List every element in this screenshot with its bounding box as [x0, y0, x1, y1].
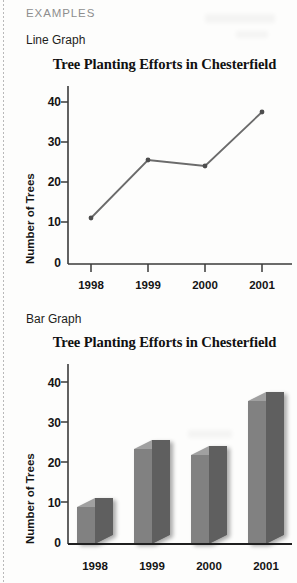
bar-chart-xtick-2001: 2001 [241, 560, 291, 572]
scan-bleed-artifact [205, 14, 275, 23]
bar-graph-label: Bar Graph [26, 312, 81, 326]
line-chart-xtick-2000: 2000 [180, 279, 230, 291]
line-chart-ytick-10: 10 [33, 215, 61, 229]
line-chart-ytick-20: 20 [33, 175, 61, 189]
bar-chart-xtick-2000: 2000 [184, 560, 234, 572]
bar-chart-xtick-1998: 1998 [70, 560, 120, 572]
bar-1998 [77, 498, 113, 544]
bar-graph-title: Tree Planting Efforts in Chesterfield [0, 334, 297, 351]
line-data-point [260, 110, 265, 115]
line-chart-ytick-30: 30 [33, 135, 61, 149]
line-chart-ytick-40: 40 [33, 95, 61, 109]
bar-chart: Number of Trees 40 30 20 10 0 [0, 364, 297, 583]
line-chart-xtick-1998: 1998 [66, 279, 116, 291]
line-data-point [203, 164, 208, 169]
bar-1999 [134, 440, 170, 544]
line-chart-ytick-0: 0 [33, 256, 61, 270]
scan-bleed-artifact [236, 31, 268, 38]
line-series-path [91, 112, 262, 218]
line-chart-xtick-1999: 1999 [123, 279, 173, 291]
line-graph-title: Tree Planting Efforts in Chesterfield [0, 56, 297, 73]
line-chart: Number of Trees 40 30 20 10 0 1998 1999 … [0, 86, 297, 286]
line-data-point [89, 216, 94, 221]
bar-chart-ytick-20: 20 [33, 456, 61, 470]
bar-2001 [248, 392, 284, 544]
line-chart-xtick-2001: 2001 [237, 279, 287, 291]
bar-chart-xtick-1999: 1999 [127, 560, 177, 572]
section-kicker: EXAMPLES [26, 7, 95, 19]
bar-chart-ytick-30: 30 [33, 416, 61, 430]
bar-chart-ytick-0: 0 [33, 536, 61, 550]
line-data-point [146, 158, 151, 163]
bar-chart-ytick-10: 10 [33, 496, 61, 510]
bar-chart-ytick-40: 40 [33, 376, 61, 390]
bar-2000 [191, 446, 227, 544]
line-graph-label: Line Graph [26, 33, 85, 47]
